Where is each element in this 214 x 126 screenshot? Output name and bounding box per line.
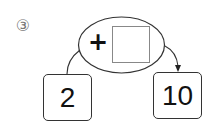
answer-blank-box[interactable] <box>112 26 150 63</box>
result-value: 10 <box>162 80 193 112</box>
start-value-box: 2 <box>43 74 92 121</box>
connector-left-arc <box>67 50 80 74</box>
arrow-head-icon <box>175 65 181 72</box>
start-value: 2 <box>60 82 76 114</box>
connector-right-arc <box>165 46 178 66</box>
plus-operator: + <box>88 31 108 53</box>
result-value-box: 10 <box>153 72 202 119</box>
